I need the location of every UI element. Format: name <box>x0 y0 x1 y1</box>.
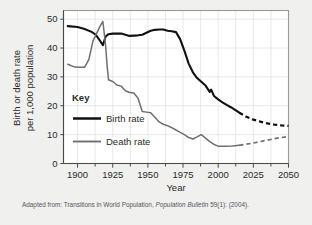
y-tick-label: 0 <box>52 158 57 169</box>
x-axis-tick-labels: 1900192519501975200020252050 <box>67 169 299 180</box>
y-axis-title-line2: per 1,000 population <box>24 45 35 132</box>
x-axis-title: Year <box>166 182 185 193</box>
y-axis-title: Birth or death rate per 1,000 population <box>11 45 35 132</box>
x-tick-label: 2050 <box>278 169 299 180</box>
caption-prefix: Adapted from: Transitions in World Popul… <box>22 201 155 209</box>
y-tick-label: 40 <box>47 42 58 53</box>
x-tick-label: 2025 <box>243 169 264 180</box>
x-tick-label: 1975 <box>172 169 193 180</box>
caption-suffix: 59(1): (2004). <box>208 201 249 209</box>
legend-label-birth-rate: Birth rate <box>106 113 145 124</box>
legend-label-death-rate: Death rate <box>106 136 150 147</box>
figure-container: 01020304050 1900192519501975200020252050… <box>0 0 312 225</box>
x-tick-label: 1950 <box>137 169 158 180</box>
y-tick-label: 20 <box>47 100 58 111</box>
x-tick-label: 1925 <box>102 169 123 180</box>
caption-italic: Population Bulletin <box>155 201 208 209</box>
y-tick-label: 30 <box>47 71 58 82</box>
chart-svg-wrap: 01020304050 1900192519501975200020252050… <box>0 0 312 225</box>
y-tick-label: 50 <box>47 13 58 24</box>
legend-title: Key <box>72 92 90 103</box>
x-tick-label: 1900 <box>67 169 88 180</box>
source-caption: Adapted from: Transitions in World Popul… <box>22 201 249 209</box>
y-axis-title-line1: Birth or death rate <box>11 50 22 126</box>
y-axis-tick-labels: 01020304050 <box>47 13 58 168</box>
birth-death-rate-line-chart: 01020304050 1900192519501975200020252050… <box>0 0 312 225</box>
y-tick-label: 10 <box>47 129 58 140</box>
x-tick-label: 2000 <box>208 169 229 180</box>
